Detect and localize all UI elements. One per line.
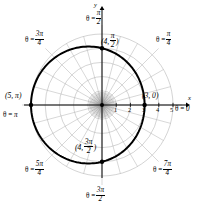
theta-equals-sign-6: θ =: [86, 192, 95, 200]
theta-equals-sign-2: θ =: [156, 36, 165, 44]
point-open-4: (4,: [75, 143, 83, 152]
x-tick-label-4: 4: [156, 107, 159, 113]
point-text-3-0: (3, 0): [142, 91, 158, 100]
angle-label-theta-pi: θ = π: [3, 112, 18, 119]
tick-text-3: 3: [142, 106, 145, 113]
angle-label-theta-3pi-over-2: θ =3π2: [86, 187, 106, 203]
point-text-5-pi: (5, π): [5, 91, 21, 100]
frac-den-6: 2: [96, 196, 105, 204]
x-axis-letter: x: [188, 94, 191, 101]
angle-label-theta-7pi-over-4: θ =7π4: [153, 161, 173, 177]
tick-text-4: 4: [156, 106, 159, 113]
theta-value-pi: π: [14, 111, 18, 119]
angle-label-theta-0: θ = 0: [175, 106, 190, 113]
point-label-4-3pi-over-2: (4,3π2): [75, 138, 96, 155]
tick-text-1: 1: [114, 106, 117, 113]
theta-equals-sign-5: θ =: [25, 166, 34, 174]
x-tick-label-2: 2: [128, 107, 131, 113]
point-open-1: (4,: [101, 37, 109, 46]
frac-den-1: 2: [96, 19, 102, 27]
point-close-4: ): [94, 143, 97, 152]
point-label-5-pi: (5, π): [5, 92, 21, 100]
y-axis-letter: y: [94, 1, 97, 8]
tick-text-2: 2: [128, 106, 131, 113]
frac-den-7: 4: [163, 170, 172, 178]
y-axis-label: y: [94, 2, 97, 9]
x-tick-label-5: 5: [170, 107, 173, 113]
angle-label-theta-5pi-over-4: θ =5π4: [25, 161, 45, 177]
point-label-3-0: (3, 0): [142, 92, 158, 100]
angle-label-theta-3pi-over-4: θ =3π4: [25, 31, 45, 47]
point-close-1: ): [116, 37, 119, 46]
x-axis-label: x: [188, 95, 191, 102]
point-frac-den-1: 2: [110, 41, 116, 49]
point-label-4-pi-over-2: (4,π2): [101, 32, 119, 49]
theta-equals-sign-4: θ =: [3, 111, 12, 119]
point-frac-den-4: 2: [84, 147, 94, 155]
x-tick-label-1: 1: [114, 107, 117, 113]
angle-label-theta-pi-over-4: θ =π4: [156, 31, 172, 47]
theta-equals-sign-3: θ =: [25, 36, 34, 44]
frac-den-2: 4: [166, 40, 172, 48]
tick-text-5: 5: [170, 106, 173, 113]
theta-equals-sign-1: θ =: [86, 15, 95, 23]
theta-equals-sign-7: θ =: [153, 166, 162, 174]
theta-value-zero: 0: [186, 105, 190, 113]
frac-den-5: 4: [35, 170, 44, 178]
frac-den-3: 4: [35, 40, 44, 48]
theta-equals-sign-8: θ =: [175, 105, 184, 113]
angle-label-theta-pi-over-2: θ =π2: [86, 10, 102, 26]
x-tick-label-3: 3: [142, 107, 145, 113]
polar-graph-figure: θ =π2 θ =π4 θ =3π4 θ = π θ =5π4 θ =3π2 θ…: [0, 0, 197, 204]
